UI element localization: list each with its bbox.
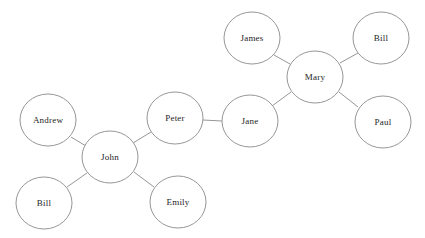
node-label-bill_b: Bill xyxy=(37,198,52,208)
graph-node-mary[interactable]: Mary xyxy=(287,51,343,103)
graph-node-jane[interactable]: Jane xyxy=(222,95,278,147)
graph-node-paul[interactable]: Paul xyxy=(355,96,411,148)
node-label-emily: Emily xyxy=(167,197,190,207)
graph-edge-mary-jane xyxy=(272,92,291,106)
graph-node-bill_b[interactable]: Bill xyxy=(16,177,72,229)
node-label-john: John xyxy=(101,152,119,162)
graph-node-john[interactable]: John xyxy=(82,131,138,183)
node-label-paul: Paul xyxy=(375,117,392,127)
graph-edge-jane-peter xyxy=(203,120,222,121)
graph-edge-mary-james xyxy=(274,55,290,64)
network-graph-canvas: JamesBillMaryJanePaulPeterAndrewJohnBill… xyxy=(0,0,425,238)
graph-edge-mary-paul xyxy=(339,92,358,107)
graph-edge-mary-bill_a xyxy=(340,53,358,63)
graph-edge-john-emily xyxy=(134,172,154,187)
node-label-andrew: Andrew xyxy=(33,115,63,125)
graph-edge-peter-john xyxy=(133,132,151,143)
graph-edge-john-andrew xyxy=(71,137,86,146)
node-label-jane: Jane xyxy=(242,116,259,126)
graph-node-emily[interactable]: Emily xyxy=(150,176,206,228)
node-label-mary: Mary xyxy=(305,72,326,82)
graph-node-andrew[interactable]: Andrew xyxy=(20,94,76,146)
graph-node-peter[interactable]: Peter xyxy=(147,92,203,144)
graph-node-bill_a[interactable]: Bill xyxy=(353,12,409,64)
node-label-james: James xyxy=(241,33,264,43)
graph-edge-john-bill_b xyxy=(67,173,87,187)
graph-node-james[interactable]: James xyxy=(224,12,280,64)
network-graph-svg: JamesBillMaryJanePaulPeterAndrewJohnBill… xyxy=(0,0,425,238)
node-label-peter: Peter xyxy=(165,113,185,123)
node-label-bill_a: Bill xyxy=(374,33,389,43)
